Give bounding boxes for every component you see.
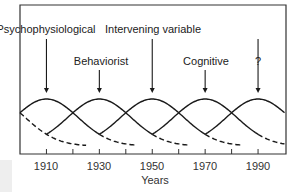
paradigm-label-psychophysiological: Psychophysiological: [0, 24, 96, 35]
x-tick-label-1990: 1990: [246, 161, 270, 172]
x-tick-label-1970: 1970: [193, 161, 217, 172]
arrow-3-head-icon: [203, 88, 208, 93]
x-axis-title: Years: [141, 175, 169, 186]
curve-4-solid: [205, 99, 284, 134]
x-tick-label-1910: 1910: [34, 161, 58, 172]
curve-2-tail-dashed: [205, 134, 242, 145]
x-tick-label-1950: 1950: [140, 161, 164, 172]
curve-0-tail-dashed: [99, 134, 136, 145]
paradigm-label-intervening-variable: Intervening variable: [105, 24, 201, 35]
arrow-2-head-icon: [150, 88, 155, 93]
curve-0-solid: [20, 99, 99, 134]
paradigm-label-cognitive: Cognitive: [183, 56, 229, 67]
arrow-1-head-icon: [97, 88, 102, 93]
paradigm-label-behaviorist: Behaviorist: [74, 56, 128, 67]
arrow-0-head-icon: [44, 88, 49, 93]
curve-1-tail-dashed: [152, 134, 189, 145]
x-tick-label-1930: 1930: [87, 161, 111, 172]
curve-3-tail-dashed: [258, 134, 284, 144]
paradigm-label-unknown: ?: [255, 56, 261, 67]
arrow-4-head-icon: [256, 88, 261, 93]
paradigm-diagram: Psychophysiological Behaviorist Interven…: [0, 0, 299, 192]
